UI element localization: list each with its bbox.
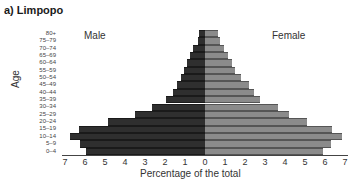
x-tick-label: 6 xyxy=(79,157,91,167)
male-bar xyxy=(79,126,205,133)
female-bar xyxy=(205,104,278,111)
x-tick-label: 6 xyxy=(319,157,331,167)
x-axis-line xyxy=(62,155,348,156)
female-bar xyxy=(205,67,235,74)
female-bar xyxy=(205,96,260,103)
female-bar xyxy=(205,52,228,59)
x-tick-label: 5 xyxy=(299,157,311,167)
male-bar xyxy=(166,96,205,103)
male-bar xyxy=(108,118,205,125)
female-bar xyxy=(205,89,254,96)
pyramid-plot-area xyxy=(0,30,360,155)
male-bar xyxy=(190,52,205,59)
x-tick-label: 5 xyxy=(99,157,111,167)
male-bar xyxy=(135,111,205,118)
female-bar xyxy=(205,140,331,147)
male-bar xyxy=(193,45,205,52)
x-tick-label: 3 xyxy=(139,157,151,167)
male-bar xyxy=(70,133,205,140)
female-bar xyxy=(205,45,224,52)
female-bar xyxy=(205,148,323,155)
female-bar xyxy=(205,111,289,118)
x-tick-label: 2 xyxy=(239,157,251,167)
x-tick-label: 1 xyxy=(219,157,231,167)
female-bar xyxy=(205,74,241,81)
x-tick-label: 7 xyxy=(59,157,71,167)
chart-title: a) Limpopo xyxy=(4,4,63,16)
x-tick-label: 0 xyxy=(199,157,211,167)
male-bar xyxy=(80,140,205,147)
male-bar xyxy=(173,89,205,96)
female-bar xyxy=(205,118,307,125)
male-bar xyxy=(184,67,205,74)
x-tick-label: 7 xyxy=(339,157,351,167)
male-bar xyxy=(177,81,205,88)
male-bar xyxy=(181,74,205,81)
female-bar xyxy=(205,126,332,133)
female-bar xyxy=(205,30,218,37)
male-bar xyxy=(198,37,205,44)
x-tick-label: 1 xyxy=(179,157,191,167)
x-axis-label: Percentage of the total xyxy=(140,168,241,179)
male-bar xyxy=(152,104,205,111)
male-bar xyxy=(86,148,205,155)
male-bar xyxy=(187,59,205,66)
female-bar xyxy=(205,133,342,140)
female-bar xyxy=(205,81,249,88)
x-tick-label: 4 xyxy=(279,157,291,167)
x-tick-label: 3 xyxy=(259,157,271,167)
female-bar xyxy=(205,37,220,44)
female-bar xyxy=(205,59,232,66)
x-tick-label: 4 xyxy=(119,157,131,167)
x-tick-label: 2 xyxy=(159,157,171,167)
